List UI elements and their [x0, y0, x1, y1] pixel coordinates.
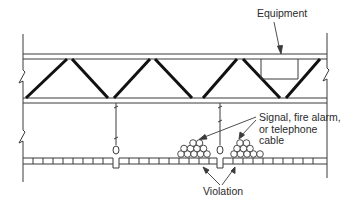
- right-wall: [323, 33, 329, 178]
- top-chord: [23, 54, 327, 59]
- equipment-box: [261, 59, 298, 79]
- equipment-label: Equipment: [257, 8, 307, 20]
- violation-arrows: [203, 167, 235, 185]
- hanger-wire-left: [113, 103, 119, 154]
- cable-bundle-left: [178, 140, 211, 158]
- cable-label-line-1: Signal, fire alarm,: [259, 112, 341, 124]
- equipment-arrow: [274, 22, 283, 54]
- left-wall: [19, 34, 25, 182]
- cable-label-line-3: cable: [259, 135, 341, 147]
- hanger-wire-right: [217, 103, 223, 154]
- bottom-chord: [23, 98, 327, 103]
- cable-label: Signal, fire alarm, or telephone cable: [259, 112, 341, 147]
- suspended-ceiling-grid: [23, 158, 327, 168]
- cable-label-arrows: [199, 117, 256, 140]
- violation-label: Violation: [203, 186, 243, 198]
- diagram-canvas: Equipment Signal, fire alarm, or telepho…: [0, 0, 344, 216]
